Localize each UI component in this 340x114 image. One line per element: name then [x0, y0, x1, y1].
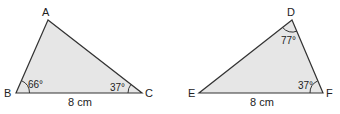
- side-ef-length: 8 cm: [250, 96, 274, 108]
- angle-c-value: 37°: [110, 82, 125, 93]
- angle-d-value: 77°: [281, 35, 296, 46]
- vertex-b-label: B: [4, 87, 11, 99]
- angle-b-value: 66°: [28, 79, 43, 90]
- vertex-d-label: D: [287, 6, 295, 18]
- vertex-c-label: C: [145, 87, 153, 99]
- triangles-diagram: A B C 66° 37° 8 cm D E F 77° 37° 8 cm: [0, 0, 340, 114]
- triangle-def: D E F 77° 37° 8 cm: [188, 6, 333, 108]
- angle-f-value: 37°: [298, 80, 313, 91]
- vertex-a-label: A: [42, 6, 50, 18]
- vertex-e-label: E: [188, 87, 195, 99]
- vertex-f-label: F: [326, 87, 333, 99]
- triangle-abc: A B C 66° 37° 8 cm: [4, 6, 153, 108]
- side-bc-length: 8 cm: [68, 96, 92, 108]
